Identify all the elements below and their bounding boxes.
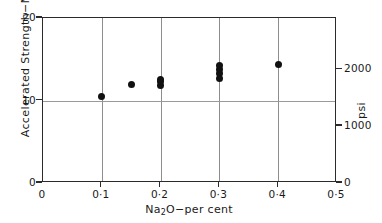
x-axis-tick-label: 0·2 [140,189,180,200]
y-axis-tick-label: 20 [22,12,36,23]
x-axis-tick-label: 0·4 [257,189,297,200]
y2-axis-tick [336,181,342,182]
gridline-vertical [161,18,162,181]
chart-figure: Accelerated Strength−MPa psi Na2O−per ce… [0,0,382,223]
y-axis-tick-label: 0 [29,177,36,188]
x-axis-tick [159,182,160,187]
data-point [98,93,105,100]
gridline-vertical [219,18,220,181]
x-axis-tick [218,182,219,187]
gridline-horizontal [43,101,335,102]
y-axis-tick [36,16,42,17]
y-axis-tick [36,99,42,100]
y2-axis-tick-label: 2000 [344,63,372,74]
x-axis-tick-label: 0·1 [81,189,121,200]
y2-axis-tick [336,68,342,69]
x-axis-tick-label: 0 [22,189,62,200]
plot-area [42,17,336,182]
data-point [157,76,164,83]
y-axis-tick [36,181,42,182]
y-axis-tick-label: 10 [22,95,36,106]
gridline-vertical [278,18,279,181]
y2-axis-tick-label: 1000 [344,120,372,131]
y2-axis-tick-label: 0 [344,177,351,188]
y2-axis-tick [336,124,342,125]
x-title-suffix: O−per cent [166,203,233,216]
x-axis-title: Na2O−per cent [42,203,336,217]
data-point [275,61,282,68]
data-point [128,81,135,88]
x-title-prefix: Na [145,203,161,216]
x-axis-tick-label: 0·5 [316,189,356,200]
x-axis-tick [277,182,278,187]
x-axis-tick-label: 0·3 [198,189,238,200]
x-axis-tick [100,182,101,187]
